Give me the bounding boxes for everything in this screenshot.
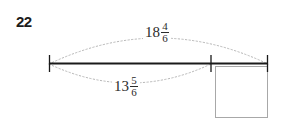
- upper-fraction: 4 6: [161, 21, 169, 44]
- upper-whole-number: 18: [145, 25, 161, 40]
- lower-arc-label: 13 5 6: [112, 75, 140, 98]
- worksheet-problem: 22 18 4 6 13 5: [0, 0, 284, 125]
- upper-numerator: 4: [161, 21, 169, 32]
- number-line-diagram: [0, 0, 284, 125]
- upper-denominator: 6: [161, 33, 169, 44]
- lower-fraction: 5 6: [130, 75, 138, 98]
- upper-arc-label: 18 4 6: [143, 21, 171, 44]
- answer-box[interactable]: [216, 67, 268, 118]
- lower-numerator: 5: [130, 75, 138, 86]
- lower-whole-number: 13: [114, 79, 130, 94]
- lower-denominator: 6: [130, 87, 138, 98]
